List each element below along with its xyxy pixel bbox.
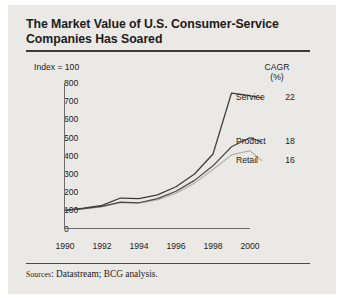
legend-row-retail: Retail 16 bbox=[236, 155, 318, 166]
cagr-header-unit: (%) bbox=[254, 72, 300, 82]
source-body-text: : Datastream; BCG analysis. bbox=[51, 269, 158, 279]
source-note: Sources: Datastream; BCG analysis. bbox=[26, 269, 158, 279]
cagr-header-label: CAGR bbox=[254, 62, 300, 72]
legend-cagr-product: 18 bbox=[276, 136, 304, 146]
legend-cagr-retail: 16 bbox=[276, 155, 304, 165]
title-block: The Market Value of U.S. Consumer-Servic… bbox=[26, 17, 312, 46]
legend-label-product: Product bbox=[236, 136, 266, 146]
title-divider bbox=[26, 50, 310, 52]
legend-row-service: Service 22 bbox=[236, 92, 318, 103]
x-tick-1996: 1996 bbox=[166, 241, 185, 251]
y-axis-note: Index = 100 bbox=[34, 62, 79, 72]
footer-divider bbox=[26, 263, 310, 264]
legend-label-service: Service bbox=[236, 92, 265, 102]
x-tick-1992: 1992 bbox=[92, 241, 111, 251]
source-prefix-label: Sources bbox=[26, 270, 51, 279]
cagr-column-header: CAGR (%) bbox=[254, 62, 300, 82]
legend-cagr-service: 22 bbox=[276, 92, 304, 102]
legend-row-product: Product 18 bbox=[236, 136, 318, 147]
figure-panel: The Market Value of U.S. Consumer-Servic… bbox=[8, 5, 336, 294]
legend-label-retail: Retail bbox=[236, 155, 258, 165]
page-title: The Market Value of U.S. Consumer-Servic… bbox=[26, 17, 312, 46]
x-tick-1994: 1994 bbox=[129, 241, 148, 251]
series-line-retail bbox=[65, 151, 250, 211]
x-tick-2000: 2000 bbox=[240, 241, 259, 251]
x-tick-1998: 1998 bbox=[203, 241, 222, 251]
series-line-service bbox=[65, 93, 250, 210]
x-tick-1990: 1990 bbox=[55, 241, 74, 251]
